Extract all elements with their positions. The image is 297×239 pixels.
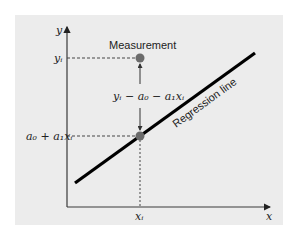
residual-label: yᵢ − a₀ − a₁xᵢ xyxy=(112,90,184,103)
xi-label: xᵢ xyxy=(135,210,143,223)
yi-label: yᵢ xyxy=(53,52,62,65)
y-axis-label: y xyxy=(55,24,63,37)
regression-diagram: y x yᵢ xᵢ a₀ + a₁xᵢ yᵢ − a₀ − a₁xᵢ Measu… xyxy=(0,0,297,239)
fitted-point xyxy=(136,132,145,141)
fitted-value-label: a₀ + a₁xᵢ xyxy=(26,130,73,143)
measurement-label: Measurement xyxy=(109,39,176,51)
x-axis-label: x xyxy=(266,210,273,223)
measurement-point xyxy=(136,54,145,63)
regression-line xyxy=(75,53,255,183)
